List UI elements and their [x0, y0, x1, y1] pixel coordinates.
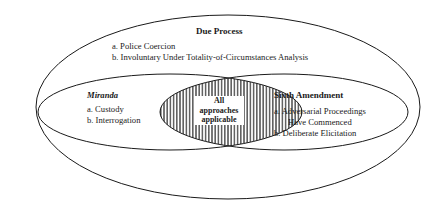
intersection-label: All approaches applicable — [194, 96, 244, 125]
miranda-item-a: a. Custody — [87, 104, 124, 114]
intersection-line-2: approaches — [195, 106, 243, 116]
sixth-amendment-title: Sixth Amendment — [274, 90, 343, 100]
miranda-title: Miranda — [87, 90, 118, 100]
due-process-title: Due Process — [196, 26, 243, 36]
due-process-item-a: a. Police Coercion — [112, 41, 175, 51]
intersection-line-1: All — [195, 96, 243, 106]
sixth-amendment-item-b: b. Deliberate Elicitation — [274, 128, 356, 138]
sixth-amendment-item-a: a. Adversarial Proceedings — [274, 106, 366, 116]
sixth-amendment-item-a-cont: Have Commenced — [288, 117, 352, 127]
miranda-item-b: b. Interrogation — [87, 115, 140, 125]
intersection-line-3: applicable — [195, 115, 243, 125]
due-process-item-b: b. Involuntary Under Totality-of-Circums… — [112, 52, 308, 62]
